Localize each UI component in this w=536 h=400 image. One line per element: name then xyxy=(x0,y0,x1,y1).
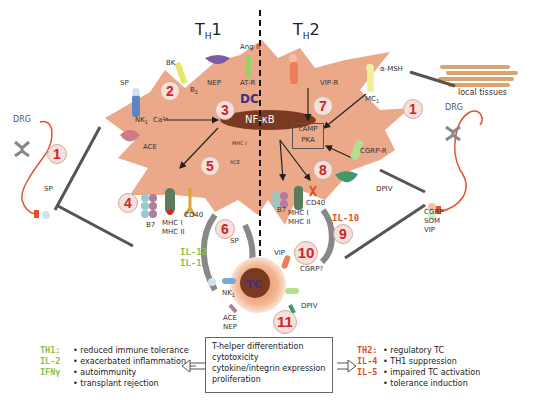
step-2: 2 xyxy=(160,81,180,101)
amsh-label: α-MSH xyxy=(380,66,403,73)
step-9: 9 xyxy=(333,224,353,244)
step-4: 4 xyxy=(118,193,138,213)
tc-cgrp-label: CGRP? xyxy=(300,266,323,273)
mhc1-left-label: MHC I xyxy=(162,220,182,227)
step-7: 7 xyxy=(313,96,333,116)
tc-nep-label: NEP xyxy=(223,324,237,331)
ace-small-label: ACE xyxy=(230,160,240,165)
dc-label: DC xyxy=(240,92,259,106)
step-11: 11 xyxy=(273,310,297,334)
tc-dpiv-label: DPIV xyxy=(301,303,317,310)
tc-label: TC xyxy=(246,278,262,291)
cd40-right-label: CD40 xyxy=(306,200,325,207)
b7-left-label: B7 xyxy=(146,222,155,229)
b2-label: B2 xyxy=(190,87,198,95)
b7-right-label: B7 xyxy=(277,207,286,214)
th2-keys: TH2:IL-4IL-5 xyxy=(357,345,377,378)
calcium-label: Ca²⁺ xyxy=(153,117,169,124)
right-nerve xyxy=(438,111,482,212)
step-1-right: 1 xyxy=(403,99,423,119)
ang2-label: Ang II xyxy=(240,44,260,51)
step-6: 6 xyxy=(215,219,235,239)
sp-top-label: SP xyxy=(120,80,129,87)
th1-keys: TH1:IL-2IFNγ xyxy=(40,345,60,378)
som-label: SOM xyxy=(424,218,440,225)
tc-ace-label: ACE xyxy=(223,315,237,322)
il10-label: IL-10 xyxy=(332,213,359,223)
vip-right-label: VIP xyxy=(424,227,435,234)
drg-left-label: DRG xyxy=(13,116,31,124)
th1-title: TH1 xyxy=(195,20,222,41)
drg-right-label: DRG xyxy=(445,104,463,112)
nfkb-label: NF-κB xyxy=(245,114,275,125)
mc1-label: MC1 xyxy=(365,96,379,104)
left-nerve xyxy=(22,122,52,214)
th2-effects-list: regulatory TCTH1 suppressionimpaired TC … xyxy=(383,345,480,389)
th1-effects-list: reduced immune toleranceexacerbated infl… xyxy=(73,345,189,389)
local-tissues-label: local tissues xyxy=(458,89,507,97)
step-3: 3 xyxy=(215,100,235,120)
vipr-label: VIP-R xyxy=(320,80,338,87)
sp-6-label: SP xyxy=(230,238,239,245)
cgrpr-label: CGRP-R xyxy=(360,148,387,155)
nep-label: NEP xyxy=(207,80,221,87)
step-8: 8 xyxy=(313,160,333,180)
dpiv-right-label: DPIV xyxy=(376,186,392,193)
step-1-left: 1 xyxy=(47,144,67,164)
step-5: 5 xyxy=(200,156,220,176)
sp-left-label: SP xyxy=(44,186,53,193)
cgrp-label: CGRP xyxy=(424,209,443,216)
bk-label: BK xyxy=(166,60,175,67)
camp-pka-box: cAMPPKA xyxy=(292,123,324,149)
il12-label: IL-12 xyxy=(180,247,207,257)
mhc2-left-label: MHC II xyxy=(162,229,185,236)
tc-vip-label: VIP xyxy=(274,250,285,257)
tc-functions-box: T-helper differentiationcytotoxicitycyto… xyxy=(205,337,333,393)
mhc1-small-label: MHC I xyxy=(232,141,247,146)
cd40-left-label: CD40 xyxy=(184,212,203,219)
atr-label: AT-R xyxy=(240,80,255,87)
mhc2-right-label: MHC II xyxy=(288,219,311,226)
il1-label: IL-1 xyxy=(180,258,202,268)
tc-nk1-label: NK1 xyxy=(222,290,235,298)
step-10: 10 xyxy=(294,241,318,265)
th2-title: TH2 xyxy=(293,20,320,41)
ace-label: ACE xyxy=(143,144,157,151)
mhc1-right-label: MHC I xyxy=(288,210,308,217)
nk1-label: NK1 xyxy=(135,117,148,125)
